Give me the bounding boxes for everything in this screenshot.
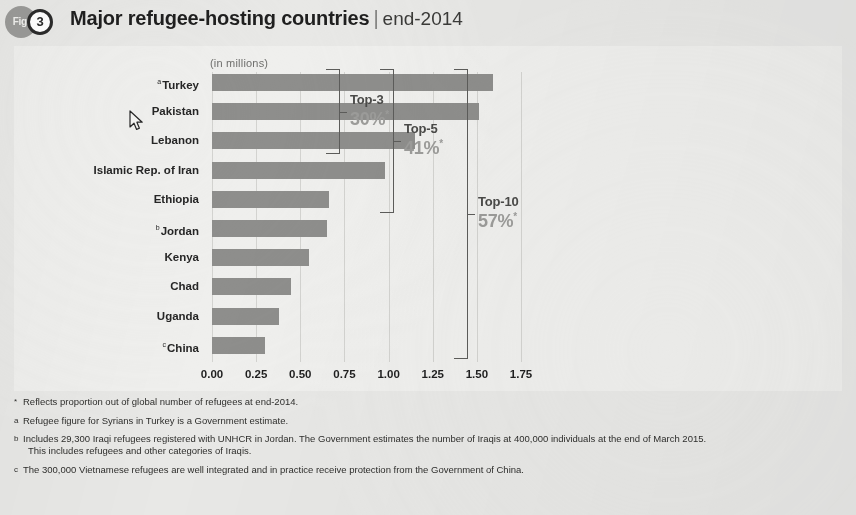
footnote-c: cThe 300,000 Vietnamese refugees are wel… [14,464,842,476]
bar-islamic-rep-of-iran [212,162,385,179]
x-axis-tick-1.00: 1.00 [377,368,399,380]
x-axis-tick-1.25: 1.25 [422,368,444,380]
bar-kenya [212,249,309,266]
footnote-marker: a [157,78,161,85]
bar-chart-plot-area: aTurkeyPakistanLebanonIslamic Rep. of Ir… [14,46,842,391]
footnote-text: The 300,000 Vietnamese refugees are well… [23,464,524,475]
y-axis-label-kenya: Kenya [164,251,199,263]
y-axis-label-lebanon: Lebanon [151,134,199,146]
footnote-text: Includes 29,300 Iraqi refugees registere… [23,433,706,444]
gridline-1.75 [521,72,522,362]
annotation-value: 57%* [478,209,518,229]
footnote-b: bIncludes 29,300 Iraqi refugees register… [14,433,842,457]
title-subtitle-text: end-2014 [383,8,463,29]
footnote-mark: b [14,433,18,445]
footnote-asterisk: *Reflects proportion out of global numbe… [14,396,842,408]
annotation-top-10: Top-1057%* [478,194,518,229]
annotation-footnote-marker: * [439,138,443,149]
bar-china [212,337,265,354]
footnote-text: Refugee figure for Syrians in Turkey is … [23,415,288,426]
figure-header: Fig. 3 Major refugee-hosting countries|e… [0,0,856,46]
x-axis-tick-0.25: 0.25 [245,368,267,380]
bar-ethiopia [212,191,329,208]
x-axis-tick-1.50: 1.50 [466,368,488,380]
footnote-continuation: This includes refugees and other categor… [23,445,842,457]
bracket-nub-top-10 [468,214,475,216]
x-axis-tick-1.75: 1.75 [510,368,532,380]
bar-uganda [212,308,279,325]
annotation-label: Top-5 [404,121,443,136]
figure-number-circle: 3 [27,9,53,35]
y-axis-label-turkey: aTurkey [157,76,199,91]
bracket-nub-top-3 [340,112,347,114]
figure-page: Fig. 3 Major refugee-hosting countries|e… [0,0,856,515]
footnote-mark: c [14,464,18,476]
footnote-a: aRefugee figure for Syrians in Turkey is… [14,415,842,427]
footnotes-block: *Reflects proportion out of global numbe… [14,396,842,482]
y-axis-label-pakistan: Pakistan [152,105,199,117]
footnote-mark: * [14,396,17,408]
y-axis-label-chad: Chad [170,280,199,292]
y-axis-label-islamic-rep-of-iran: Islamic Rep. of Iran [94,164,199,176]
bar-turkey [212,74,493,91]
footnote-marker: c [163,341,167,348]
footnote-mark: a [14,415,18,427]
bracket-nub-top-5 [394,141,401,143]
annotation-value: 41%* [404,136,443,156]
bracket-top-10 [454,69,468,359]
figure-badge: Fig. 3 [5,6,67,38]
title-separator: | [369,7,382,29]
footnote-text: Reflects proportion out of global number… [23,396,298,407]
bracket-top-3 [326,69,340,154]
annotation-top-5: Top-541%* [404,121,443,156]
x-axis-tick-0.00: 0.00 [201,368,223,380]
page-title: Major refugee-hosting countries|end-2014 [70,7,463,30]
annotation-label: Top-10 [478,194,518,209]
bracket-top-5 [380,69,394,213]
bar-jordan [212,220,327,237]
annotation-footnote-marker: * [513,211,517,222]
y-axis-label-ethiopia: Ethiopia [154,193,199,205]
y-axis-label-jordan: bJordan [156,222,199,237]
footnote-marker: b [156,224,160,231]
chart-panel: (in millions) aTurkeyPakistanLebanonIsla… [14,46,842,391]
y-axis-label-china: cChina [163,339,199,354]
title-main-text: Major refugee-hosting countries [70,7,369,29]
y-axis-label-uganda: Uganda [157,310,199,322]
x-axis-tick-0.75: 0.75 [333,368,355,380]
x-axis-tick-0.50: 0.50 [289,368,311,380]
bar-chad [212,278,291,295]
